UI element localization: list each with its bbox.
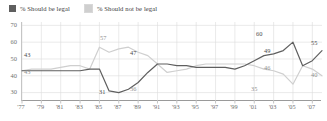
chart-legend: % Should be legal % Should not be legal xyxy=(9,3,157,14)
x-axis-tick-83: '83 xyxy=(72,104,86,110)
x-axis-tick-97: '97 xyxy=(208,104,222,110)
y-axis-tick-40: 40 xyxy=(2,73,17,79)
data-label-not-legal-40-11: 40 xyxy=(311,72,317,78)
series-line-legal xyxy=(22,42,322,92)
x-axis-tick-01: '01 xyxy=(246,104,260,110)
data-label-legal-47-4: 47 xyxy=(130,50,136,56)
x-axis-tick-99: '99 xyxy=(227,104,241,110)
line-chart: % Should be legal % Should not be legal … xyxy=(0,0,327,121)
x-axis-tick-77: '77 xyxy=(14,104,28,110)
x-axis-tick-93: '93 xyxy=(169,104,183,110)
y-axis-tick-50: 50 xyxy=(2,56,17,62)
data-label-legal-43-0: 43 xyxy=(24,52,30,58)
legend-label-not-legal: % Should not be legal xyxy=(97,5,157,12)
data-label-legal-31-3: 31 xyxy=(99,89,105,95)
legend-label-legal: % Should be legal xyxy=(20,5,70,12)
x-axis-tick-89: '89 xyxy=(130,104,144,110)
data-label-legal-55-10: 55 xyxy=(311,40,317,46)
x-axis-tick-81: '81 xyxy=(53,104,67,110)
data-label-not-legal-46-8: 46 xyxy=(264,65,270,71)
legend-swatch-legal xyxy=(9,5,16,12)
data-label-not-legal-35-9: 35 xyxy=(251,86,257,92)
y-axis-tick-60: 60 xyxy=(2,39,17,45)
legend-item-legal: % Should be legal xyxy=(9,5,70,12)
y-axis-tick-70: 70 xyxy=(2,22,17,28)
data-label-legal-60-6: 60 xyxy=(256,31,262,37)
data-label-legal-49-7: 49 xyxy=(264,48,270,54)
y-axis-tick-30: 30 xyxy=(2,89,17,95)
x-axis-tick-05: '05 xyxy=(285,104,299,110)
legend-swatch-not-legal xyxy=(84,4,93,13)
x-axis-tick-85: '85 xyxy=(91,104,105,110)
data-label-not-legal-36-5: 36 xyxy=(130,86,136,92)
x-axis-tick-79: '79 xyxy=(33,104,47,110)
x-axis-tick-87: '87 xyxy=(111,104,125,110)
legend-item-not-legal: % Should not be legal xyxy=(84,4,157,13)
data-label-not-legal-43-1: 43 xyxy=(24,69,30,75)
x-axis-tick-07: '07 xyxy=(304,104,318,110)
data-label-not-legal-57-2: 57 xyxy=(100,35,106,41)
plot-area xyxy=(21,22,321,101)
x-axis-tick-91: '91 xyxy=(149,104,163,110)
x-axis-tick-03: '03 xyxy=(266,104,280,110)
gridlines xyxy=(22,22,322,104)
x-axis-tick-95: '95 xyxy=(188,104,202,110)
